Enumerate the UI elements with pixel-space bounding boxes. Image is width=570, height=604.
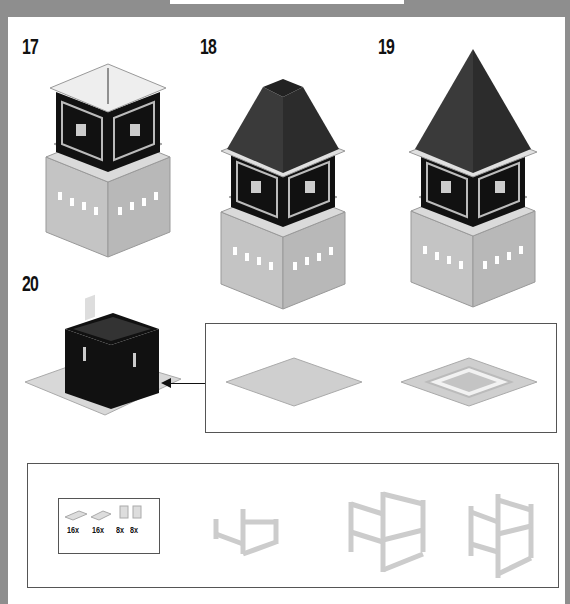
shield-emblem-left <box>76 124 86 136</box>
shield-emblem-right <box>305 181 315 193</box>
baseplate-with-frame-illustration <box>401 354 541 414</box>
step-number-20: 20 <box>22 271 38 297</box>
tower-step-18-illustration <box>213 87 353 312</box>
part-qty: 8x <box>130 525 138 535</box>
plain-baseplate-illustration <box>226 354 366 414</box>
tower-step-17-illustration <box>38 72 178 257</box>
part-qty: 8x <box>116 525 124 535</box>
part-qty: 16x <box>67 525 79 535</box>
step-number-17: 17 <box>22 34 38 60</box>
step-number-19: 19 <box>378 34 394 60</box>
instruction-page: 17 18 <box>8 17 565 604</box>
shield-emblem-right <box>130 124 140 136</box>
shield-emblem-left <box>441 181 451 193</box>
frame-stage-1-illustration <box>208 504 288 564</box>
frame-assembly-callout-box: 16x 16x 8x 8x <box>27 463 559 588</box>
plate-1x4-icon <box>65 511 87 521</box>
step-number-18: 18 <box>200 34 216 60</box>
baseplate-sub-assembly-box <box>205 323 557 433</box>
frame-stage-3-illustration <box>463 486 553 581</box>
shield-emblem-right <box>495 181 505 193</box>
parts-list-box: 16x 16x 8x 8x <box>58 498 160 554</box>
black-box-on-baseplate-illustration <box>23 317 183 427</box>
brick-1x1-round-a-icon <box>119 505 129 519</box>
arrow-head-icon <box>161 378 171 388</box>
header-tab <box>170 0 404 4</box>
part-qty: 16x <box>92 525 104 535</box>
frame-stage-2-illustration <box>343 482 433 577</box>
shield-emblem-left <box>251 181 261 193</box>
plate-1x3-icon <box>91 511 113 521</box>
tower-step-19-illustration <box>403 49 543 309</box>
brick-1x1-round-b-icon <box>132 505 142 519</box>
